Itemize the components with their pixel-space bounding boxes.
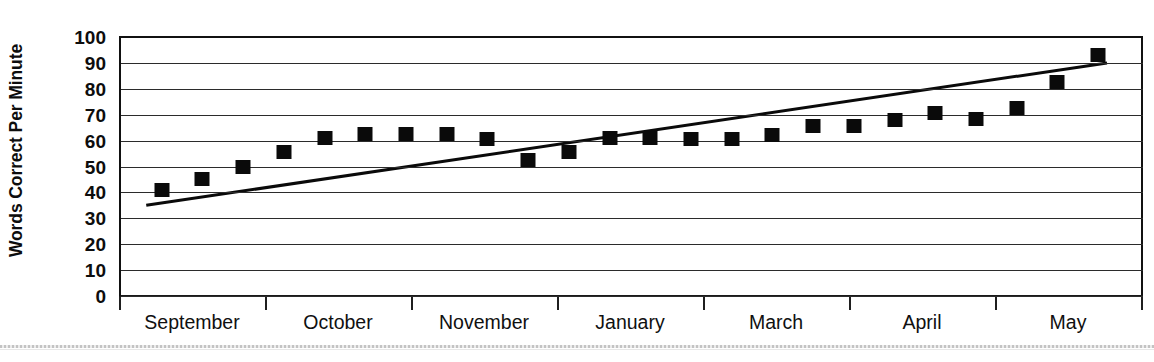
x-axis-tick bbox=[411, 297, 413, 310]
data-point-marker bbox=[806, 119, 821, 133]
x-axis-group-label: October bbox=[303, 312, 372, 332]
data-point-marker bbox=[969, 112, 984, 126]
gridline bbox=[121, 141, 1143, 142]
data-point-marker bbox=[154, 183, 169, 197]
data-point-marker bbox=[236, 160, 251, 174]
x-axis-group-label: January bbox=[595, 312, 664, 332]
x-axis-tick bbox=[119, 297, 121, 310]
gridline bbox=[121, 89, 1143, 90]
y-tick-label: 100 bbox=[74, 28, 106, 47]
data-point-marker bbox=[602, 131, 617, 145]
x-axis-group-label: April bbox=[902, 312, 941, 332]
y-axis-tick-labels: 1009080706050403020100 bbox=[38, 28, 112, 308]
x-axis-group-label: September bbox=[144, 312, 239, 332]
gridline bbox=[121, 244, 1143, 245]
gridline bbox=[121, 167, 1143, 168]
gridline bbox=[121, 296, 1143, 297]
data-point-marker bbox=[317, 131, 332, 145]
trendline-path bbox=[146, 63, 1107, 205]
gridline bbox=[121, 63, 1143, 64]
y-tick-label: 30 bbox=[85, 209, 106, 228]
y-tick-label: 80 bbox=[85, 79, 106, 98]
data-point-marker bbox=[724, 132, 739, 146]
x-axis-tick bbox=[1141, 297, 1143, 310]
data-point-marker bbox=[765, 128, 780, 142]
x-axis-tick bbox=[849, 297, 851, 310]
gridline bbox=[121, 218, 1143, 219]
gridline bbox=[121, 192, 1143, 193]
x-axis-tick bbox=[995, 297, 997, 310]
x-axis-group-label: May bbox=[1050, 312, 1087, 332]
data-point-marker bbox=[439, 127, 454, 141]
y-tick-label: 20 bbox=[85, 235, 106, 254]
y-axis-title: Words Correct Per Minute bbox=[0, 0, 34, 300]
data-point-marker bbox=[561, 145, 576, 159]
x-axis-group-label: March bbox=[749, 312, 803, 332]
data-point-marker bbox=[928, 106, 943, 120]
y-tick-label: 10 bbox=[85, 261, 106, 280]
plot-area bbox=[119, 37, 1143, 296]
y-tick-label: 50 bbox=[85, 157, 106, 176]
data-point-marker bbox=[521, 153, 536, 167]
scan-artifact-line-secondary bbox=[0, 349, 1154, 350]
gridline bbox=[121, 115, 1143, 116]
y-tick-label: 70 bbox=[85, 105, 106, 124]
data-point-marker bbox=[643, 131, 658, 145]
data-point-marker bbox=[399, 127, 414, 141]
data-point-marker bbox=[684, 132, 699, 146]
x-axis-tick bbox=[265, 297, 267, 310]
data-point-marker bbox=[195, 172, 210, 186]
y-tick-label: 0 bbox=[95, 287, 106, 306]
chart-figure: Words Correct Per Minute 100908070605040… bbox=[0, 0, 1154, 362]
data-point-marker bbox=[1009, 101, 1024, 115]
data-point-marker bbox=[1091, 48, 1106, 62]
data-point-marker bbox=[480, 132, 495, 146]
gridline bbox=[121, 270, 1143, 271]
data-point-marker bbox=[887, 113, 902, 127]
data-point-marker bbox=[358, 127, 373, 141]
y-tick-label: 40 bbox=[85, 183, 106, 202]
x-axis-group-label: November bbox=[439, 312, 529, 332]
data-point-marker bbox=[1050, 75, 1065, 89]
data-point-marker bbox=[846, 119, 861, 133]
x-axis-tick bbox=[703, 297, 705, 310]
y-tick-label: 90 bbox=[85, 53, 106, 72]
x-axis-tick bbox=[557, 297, 559, 310]
y-axis-title-text: Words Correct Per Minute bbox=[7, 43, 28, 256]
y-tick-label: 60 bbox=[85, 131, 106, 150]
scan-artifact-line bbox=[0, 345, 1154, 348]
data-point-marker bbox=[276, 145, 291, 159]
